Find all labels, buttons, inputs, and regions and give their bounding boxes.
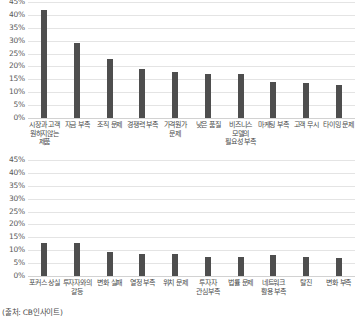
x-axis-category-label: 네트워크 활용 부족 xyxy=(257,279,290,296)
bar xyxy=(238,257,244,276)
bar xyxy=(336,85,342,119)
x-axis-category-label: 시장과 고객 원하지않는 제품 xyxy=(28,121,61,147)
bar xyxy=(303,83,309,118)
gridline xyxy=(28,118,355,119)
y-axis-tick-label: 35% xyxy=(9,24,25,32)
bar-chart-startup-failure-reasons-top: 45%40%35%30%25%20%15%10%5%0% 시장과 고객 원하지않… xyxy=(0,2,357,152)
bar xyxy=(205,74,211,118)
bar xyxy=(41,243,47,277)
bar-slot xyxy=(126,2,159,118)
x-axis-category-label: 조직 문제 xyxy=(93,121,126,147)
x-axis-category-label: 자금 부족 xyxy=(61,121,94,147)
bar-slot xyxy=(290,2,323,118)
x-axis-chart-1: 시장과 고객 원하지않는 제품자금 부족조직 문제경쟁력 부족가격원가 문제낮은… xyxy=(28,121,355,147)
y-axis-tick-label: 5% xyxy=(14,259,26,267)
y-axis-tick-label: 5% xyxy=(14,101,26,109)
bar-slot xyxy=(61,160,94,276)
x-axis-category-label: 경쟁력 부족 xyxy=(126,121,159,147)
bar-slot xyxy=(93,160,126,276)
bar-slot xyxy=(192,2,225,118)
bar-slot xyxy=(126,160,159,276)
y-axis-tick-label: 10% xyxy=(9,246,25,254)
y-axis-tick-label: 45% xyxy=(9,0,25,6)
y-axis-tick-label: 0% xyxy=(14,114,26,122)
y-axis-chart-1: 45%40%35%30%25%20%15%10%5%0% xyxy=(0,2,26,118)
x-axis-category-label: 열정 부족 xyxy=(126,279,159,296)
y-axis-tick-label: 40% xyxy=(9,169,25,177)
bar xyxy=(336,258,342,276)
source-note: (출처: CB인사이트) xyxy=(2,308,63,317)
bar-slot xyxy=(61,2,94,118)
x-axis-category-label: 투자자와의 갈등 xyxy=(61,279,94,296)
x-axis-category-label: 낮은 품질 xyxy=(192,121,225,147)
y-axis-tick-label: 20% xyxy=(9,63,25,71)
y-axis-tick-label: 0% xyxy=(14,272,26,280)
y-axis-tick-label: 20% xyxy=(9,221,25,229)
y-axis-tick-label: 40% xyxy=(9,11,25,19)
x-axis-category-label: 포커스 상실 xyxy=(28,279,61,296)
y-axis-tick-label: 30% xyxy=(9,195,25,203)
bar xyxy=(172,72,178,118)
bar xyxy=(74,43,80,118)
plot-area-chart-2 xyxy=(28,160,355,276)
bar xyxy=(139,69,145,118)
bar-slot xyxy=(159,2,192,118)
y-axis-tick-label: 15% xyxy=(9,234,25,242)
bar-slot xyxy=(224,2,257,118)
bar xyxy=(107,252,113,276)
y-axis-tick-label: 15% xyxy=(9,76,25,84)
bar-slot xyxy=(28,160,61,276)
bar-slot xyxy=(290,160,323,276)
x-axis-chart-2: 포커스 상실투자자와의 갈등변화 실패열정 부족위치 문제투자자 관심부족법률 … xyxy=(28,279,355,296)
x-axis-category-label: 위치 문제 xyxy=(159,279,192,296)
x-axis-category-label: 변화 실패 xyxy=(93,279,126,296)
x-axis-category-label: 마케팅 부족 xyxy=(257,121,290,147)
y-axis-tick-label: 10% xyxy=(9,88,25,96)
bar-group-chart-1 xyxy=(28,2,355,118)
bar-slot xyxy=(28,2,61,118)
bar-slot xyxy=(159,160,192,276)
x-axis-category-label: 투자자 관심부족 xyxy=(192,279,225,296)
y-axis-tick-label: 35% xyxy=(9,182,25,190)
y-axis-tick-label: 25% xyxy=(9,50,25,58)
x-axis-category-label: 법률 문제 xyxy=(224,279,257,296)
x-axis-category-label: 비즈니스 모델의 필요성 부족 xyxy=(224,121,257,147)
bar xyxy=(74,243,80,277)
bar-slot xyxy=(257,160,290,276)
bar-slot xyxy=(93,2,126,118)
plot-area-chart-1 xyxy=(28,2,355,118)
bar-slot xyxy=(224,160,257,276)
bar-slot xyxy=(322,160,355,276)
bar xyxy=(270,255,276,276)
bar xyxy=(107,59,113,118)
bar xyxy=(172,254,178,276)
y-axis-tick-label: 30% xyxy=(9,37,25,45)
y-axis-tick-label: 45% xyxy=(9,156,25,164)
x-axis-category-label: 가격원가 문제 xyxy=(159,121,192,147)
bar xyxy=(139,254,145,276)
bar-slot xyxy=(192,160,225,276)
bar-slot xyxy=(257,2,290,118)
y-axis-tick-label: 25% xyxy=(9,208,25,216)
gridline xyxy=(28,276,355,277)
x-axis-category-label: 고객 무시 xyxy=(290,121,323,147)
bar xyxy=(270,82,276,118)
bar-group-chart-2 xyxy=(28,160,355,276)
x-axis-category-label: 변화 부족 xyxy=(322,279,355,296)
x-axis-category-label: 타이밍 문제 xyxy=(322,121,355,147)
x-axis-category-label: 탈진 xyxy=(290,279,323,296)
bar-slot xyxy=(322,2,355,118)
bar xyxy=(41,10,47,118)
bar xyxy=(303,257,309,276)
bar xyxy=(205,257,211,276)
y-axis-chart-2: 45%40%35%30%25%20%15%10%5%0% xyxy=(0,160,26,276)
bar xyxy=(238,74,244,118)
bar-chart-startup-failure-reasons-bottom: 45%40%35%30%25%20%15%10%5%0% 포커스 상실투자자와의… xyxy=(0,160,357,310)
charts-page: 45%40%35%30%25%20%15%10%5%0% 시장과 고객 원하지않… xyxy=(0,0,357,319)
